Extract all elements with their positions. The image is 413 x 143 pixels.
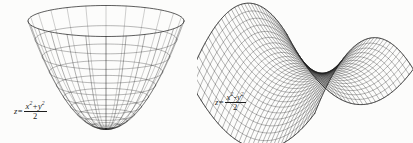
equation-equals: = <box>17 107 23 116</box>
figure-elliptic-paraboloid: z= x2+y2 2 <box>0 0 200 143</box>
figure-page: z= x2+y2 2 z= x2-y2 2 <box>0 0 413 143</box>
equation-numerator: x2+y2 <box>24 101 47 111</box>
equation-denominator: 2 <box>233 103 237 112</box>
figure-hyperbolic-paraboloid <box>197 0 413 143</box>
equation-fraction: x2+y2 2 <box>24 101 47 121</box>
numer-exp-2: 2 <box>42 100 45 106</box>
equation-fraction: x2-y2 2 <box>225 92 246 112</box>
saddle-wireframe-plot <box>197 0 413 143</box>
equation-denominator: 2 <box>33 112 37 121</box>
equation-equals: = <box>218 98 224 107</box>
equation-label-saddle: z= x2-y2 2 <box>215 92 246 112</box>
numer-exp-2: 2 <box>241 91 244 97</box>
paraboloid-wireframe-plot <box>0 0 200 143</box>
equation-numerator: x2-y2 <box>225 92 246 102</box>
equation-label-paraboloid: z= x2+y2 2 <box>14 101 47 121</box>
